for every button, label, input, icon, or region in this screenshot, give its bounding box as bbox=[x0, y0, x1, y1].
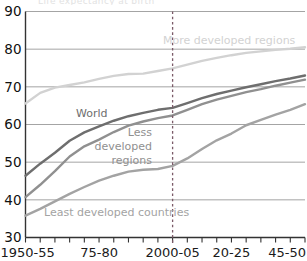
x-axis-tick-label: 1950-55 bbox=[1, 245, 55, 260]
y-axis-tick-label: 40 bbox=[4, 192, 21, 208]
series-label: World bbox=[76, 107, 108, 120]
line-chart-plot: 90807060504030 1950-5575-802000-0520-254… bbox=[0, 0, 307, 261]
x-axis-tick-label: 2000-05 bbox=[145, 245, 199, 260]
series-label: More developed regions bbox=[163, 34, 296, 47]
series-line bbox=[26, 47, 306, 103]
y-axis-tick-label: 60 bbox=[4, 116, 21, 132]
y-axis-tick-labels: 90807060504030 bbox=[4, 3, 21, 245]
chart-container: Life expectancy at birth 90807060504030 … bbox=[0, 0, 307, 261]
x-axis-tick-label: 45-50 bbox=[268, 245, 306, 260]
series-label: Less bbox=[128, 126, 152, 139]
x-axis-tick-label: 75-80 bbox=[80, 245, 118, 260]
series-line bbox=[26, 76, 306, 176]
y-axis-tick-label: 50 bbox=[4, 154, 21, 170]
y-axis-tick-label: 90 bbox=[4, 3, 21, 19]
series-label: developed bbox=[94, 140, 152, 153]
x-axis-tick-label: 20-25 bbox=[213, 245, 251, 260]
series-label: Least developed countries bbox=[44, 206, 189, 219]
y-axis-tick-label: 80 bbox=[4, 41, 21, 57]
x-axis-ticks-group bbox=[26, 238, 306, 243]
x-axis-tick-labels: 1950-5575-802000-0520-2545-50 bbox=[1, 245, 307, 260]
y-axis-tick-label: 70 bbox=[4, 79, 21, 95]
series-inline-labels: More developed regionsWorldLessdeveloped… bbox=[44, 34, 296, 219]
series-label: regions bbox=[111, 154, 152, 167]
y-axis-tick-label: 30 bbox=[4, 229, 21, 245]
data-series-group bbox=[26, 47, 306, 215]
series-line bbox=[26, 80, 306, 198]
